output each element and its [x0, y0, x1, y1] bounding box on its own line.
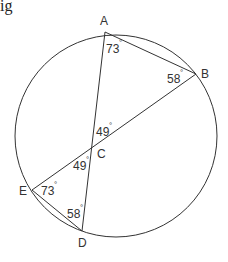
degree-symbol: ° [180, 68, 183, 77]
circle [15, 35, 217, 237]
geometry-diagram: A B C D E 73 ° 58 ° 49 ° 49 ° 73 ° 58 ° [0, 0, 228, 262]
segment-be [32, 74, 196, 190]
point-label-c: C [97, 147, 106, 161]
point-label-a: A [100, 14, 108, 28]
degree-symbol: ° [119, 38, 122, 47]
degree-symbol: ° [109, 121, 112, 130]
angle-label-b: 58 [167, 72, 181, 86]
angle-label-e: 73 [41, 184, 55, 198]
degree-symbol: ° [86, 155, 89, 164]
degree-symbol: ° [80, 203, 83, 212]
angle-label-c-lower: 49 [73, 159, 87, 173]
point-label-d: D [78, 236, 87, 250]
angle-label-a: 73 [106, 42, 120, 56]
point-label-b: B [201, 67, 209, 81]
degree-symbol: ° [54, 180, 57, 189]
angle-label-d: 58 [67, 207, 81, 221]
point-label-e: E [19, 184, 27, 198]
angle-label-c-upper: 49 [96, 125, 110, 139]
